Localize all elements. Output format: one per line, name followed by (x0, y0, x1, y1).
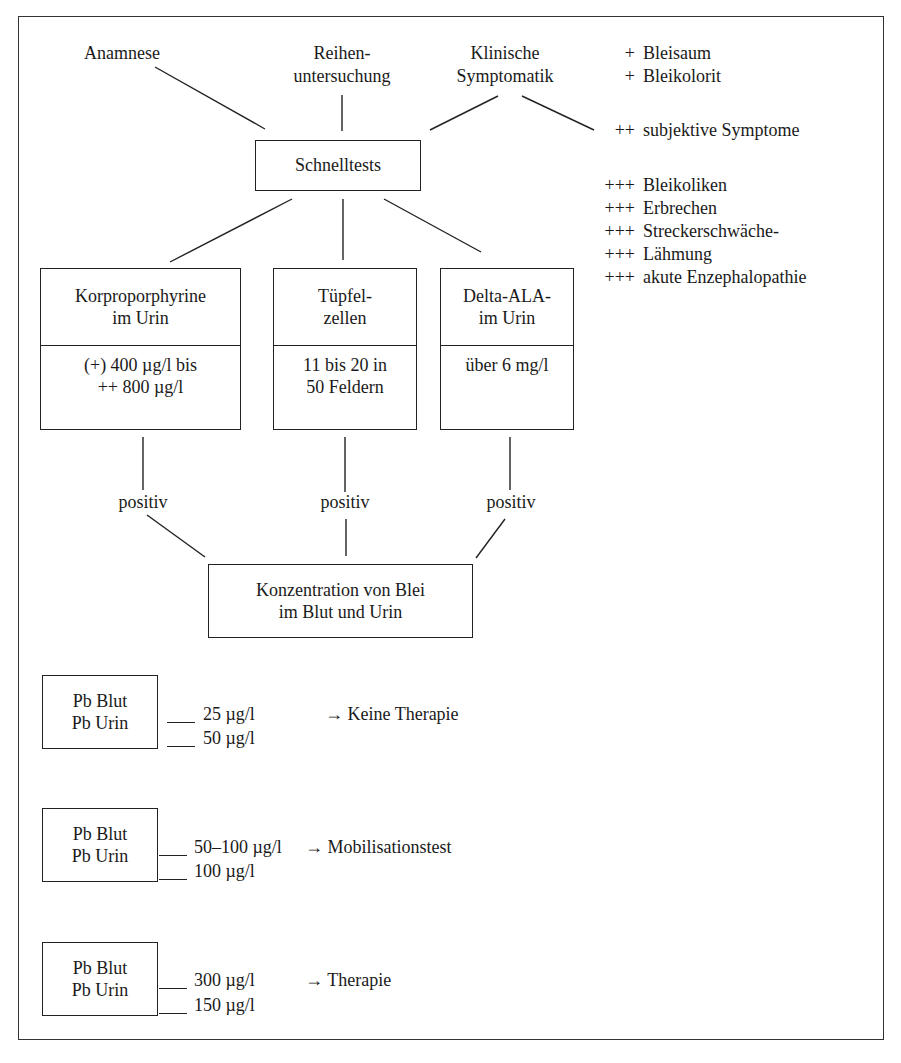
schnelltests-label: Schnelltests (256, 141, 420, 189)
value-urin: 50 µg/l (203, 728, 255, 749)
symptom-severity: +++ (595, 198, 635, 219)
result-positiv-3: positiv (471, 492, 551, 513)
value-blut: 25 µg/l (203, 704, 255, 725)
symptom-severity: ++ (595, 120, 635, 141)
test-box-korproporphyrine: Korproporphyrine im Urin (+) 400 µg/l bi… (40, 268, 241, 430)
symptom-row: ++subjektive Symptome (595, 120, 800, 141)
value-blut: 50–100 µg/l (194, 837, 282, 858)
symptom-severity: +++ (595, 221, 635, 242)
test-value-line1: über 6 mg/l (466, 354, 549, 376)
test-box-delta-ala: Delta-ALA- im Urin über 6 mg/l (440, 268, 574, 430)
test-title: Delta-ALA- im Urin (441, 269, 573, 345)
pb-blut-label: Pb Blut (73, 957, 128, 979)
connector-test-3 (384, 199, 481, 252)
connector-konz-1 (147, 515, 205, 557)
dash-urin (159, 1013, 187, 1014)
symptom-severity: + (595, 43, 635, 64)
symptom-label: akute Enzephalopathie (643, 267, 806, 287)
connector-subjektive (522, 96, 594, 130)
test-value-line2: 50 Feldern (306, 376, 383, 398)
symptom-label: Erbrechen (643, 198, 717, 218)
action-mobilisationstest: → Mobilisationstest (305, 837, 452, 858)
symptom-severity: + (595, 66, 635, 87)
action-therapie: → Therapie (305, 970, 391, 991)
dash-urin (167, 746, 195, 747)
test-value: 11 bis 20 in 50 Feldern (274, 346, 416, 424)
pb-box-2: Pb Blut Pb Urin (42, 808, 158, 882)
symptom-label: subjektive Symptome (643, 120, 800, 140)
test-title: Korproporphyrine im Urin (41, 269, 240, 345)
pb-box-3: Pb Blut Pb Urin (42, 942, 158, 1016)
test-title-line1: Delta-ALA- (463, 285, 551, 307)
symptom-row: +++Erbrechen (595, 198, 717, 219)
test-value: über 6 mg/l (441, 346, 573, 424)
test-value-line2: ++ 800 µg/l (98, 376, 184, 398)
source-reihen-line1: Reihen- (262, 43, 422, 64)
test-value-line1: 11 bis 20 in (303, 354, 387, 376)
symptom-row: +++Streckerschwäche- (595, 221, 779, 242)
test-value-line1: (+) 400 µg/l bis (84, 354, 197, 376)
pb-urin-label: Pb Urin (72, 845, 129, 867)
result-positiv-1: positiv (103, 492, 183, 513)
symptom-severity: +++ (595, 175, 635, 196)
konzentration-box: Konzentration von Blei im Blut und Urin (208, 564, 473, 638)
connector-konz-3 (476, 519, 505, 558)
result-positiv-2: positiv (305, 492, 385, 513)
symptom-label: Bleikoliken (643, 175, 727, 195)
pb-blut-label: Pb Blut (73, 823, 128, 845)
connector-lines (0, 0, 901, 1063)
value-urin: 100 µg/l (194, 861, 255, 882)
action-keine-therapie: → Keine Therapie (325, 704, 459, 725)
source-klinisch-line1: Klinische (420, 43, 590, 64)
dash-blut (159, 855, 187, 856)
symptom-row: +++Lähmung (595, 244, 712, 265)
dash-urin (159, 879, 187, 880)
connector-klinisch (430, 96, 498, 130)
pb-urin-label: Pb Urin (72, 979, 129, 1001)
symptom-label: Lähmung (643, 244, 712, 264)
symptom-row: +++akute Enzephalopathie (595, 267, 806, 288)
pb-box-1: Pb Blut Pb Urin (42, 675, 158, 749)
dash-blut (159, 988, 187, 989)
source-reihen-line2: untersuchung (262, 66, 422, 87)
value-blut: 300 µg/l (194, 970, 255, 991)
test-value: (+) 400 µg/l bis ++ 800 µg/l (41, 346, 240, 424)
source-anamnese: Anamnese (62, 43, 182, 64)
dash-blut (167, 722, 195, 723)
test-title-line1: Korproporphyrine (75, 285, 206, 307)
source-klinisch-line2: Symptomatik (420, 66, 590, 87)
symptom-label: Bleikolorit (643, 66, 721, 86)
konzentration-line1: Konzentration von Blei (256, 579, 425, 601)
symptom-severity: +++ (595, 244, 635, 265)
symptom-row: +Bleisaum (595, 43, 711, 64)
test-box-tuepfelzellen: Tüpfel- zellen 11 bis 20 in 50 Feldern (273, 268, 417, 430)
value-urin: 150 µg/l (194, 995, 255, 1016)
symptom-label: Streckerschwäche- (643, 221, 779, 241)
connector-anamnese (155, 67, 265, 129)
test-title: Tüpfel- zellen (274, 269, 416, 345)
symptom-label: Bleisaum (643, 43, 711, 63)
schnelltests-box: Schnelltests (255, 140, 421, 191)
connector-test-1 (170, 199, 292, 262)
test-title-line2: zellen (324, 307, 367, 329)
symptom-row: +++Bleikoliken (595, 175, 727, 196)
pb-blut-label: Pb Blut (73, 690, 128, 712)
symptom-row: +Bleikolorit (595, 66, 721, 87)
pb-urin-label: Pb Urin (72, 712, 129, 734)
symptom-severity: +++ (595, 267, 635, 288)
test-title-line2: im Urin (112, 307, 169, 329)
konzentration-label: Konzentration von Blei im Blut und Urin (209, 565, 472, 636)
test-title-line1: Tüpfel- (318, 285, 372, 307)
test-title-line2: im Urin (479, 307, 536, 329)
konzentration-line2: im Blut und Urin (279, 601, 403, 623)
